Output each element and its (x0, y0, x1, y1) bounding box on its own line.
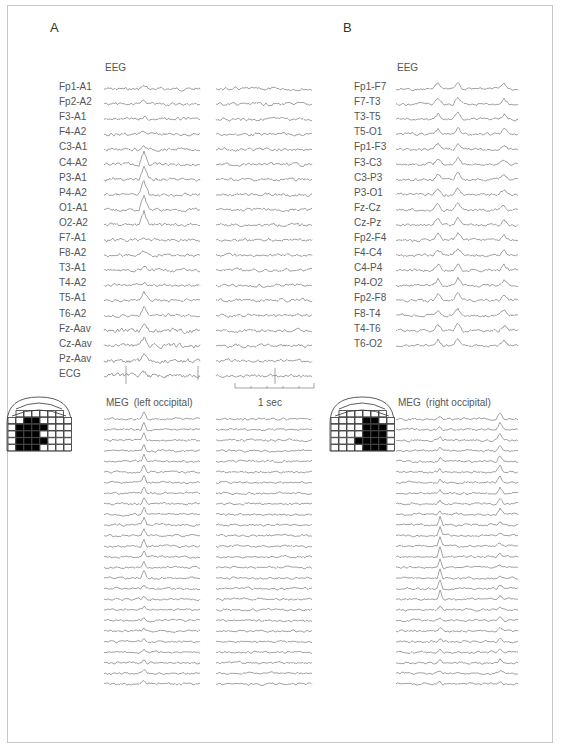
waveform-trace (216, 651, 312, 654)
waveform-trace (396, 233, 518, 242)
sensor (64, 424, 71, 430)
sensor (8, 417, 15, 423)
sensor (40, 417, 47, 423)
active-sensor (379, 431, 386, 437)
active-sensor (40, 424, 47, 430)
waveform-trace (104, 324, 200, 334)
sensor (8, 431, 15, 437)
waveform-trace (396, 580, 518, 590)
channel-label: F3-A1 (59, 111, 86, 123)
waveform-trace (216, 298, 312, 302)
right-occipital-sensor-map-icon (327, 393, 397, 453)
channel-label: Fp1-F7 (354, 81, 386, 93)
left-occipital-sensor-map-icon (4, 393, 74, 453)
waveform-trace (396, 293, 518, 303)
sensor (355, 431, 362, 437)
waveform-trace (104, 617, 200, 622)
waveform-trace (396, 487, 518, 495)
waveform-trace (104, 146, 200, 152)
channel-label: O2-A2 (59, 217, 88, 229)
waveform-trace (104, 465, 200, 473)
waveform-trace (396, 445, 518, 452)
active-sensor (363, 438, 370, 444)
waveform-trace (396, 434, 518, 442)
waveform-trace (235, 383, 314, 388)
channel-label: F3-C3 (354, 157, 382, 169)
channel-label: F7-A1 (59, 232, 86, 244)
panel-a-meg-traces (104, 413, 314, 693)
waveform-trace (104, 180, 200, 196)
waveform-trace (104, 117, 200, 121)
sensor (387, 445, 394, 451)
waveform-trace (216, 471, 312, 473)
waveform-trace (104, 445, 200, 453)
channel-label: T6-A2 (59, 308, 86, 320)
waveform-trace (216, 640, 312, 642)
waveform-trace (216, 524, 312, 526)
panel-b-letter: B (343, 20, 352, 35)
waveform-trace (104, 476, 200, 484)
channel-label: T6-O2 (354, 338, 382, 350)
waveform-trace (104, 433, 200, 442)
panel-a-letter: A (50, 20, 59, 35)
waveform-trace (216, 314, 312, 318)
active-sensor (363, 424, 370, 430)
waveform-trace (216, 284, 312, 288)
waveform-trace (104, 529, 200, 537)
waveform-trace (216, 566, 312, 569)
waveform-trace (104, 337, 200, 349)
waveform-trace (104, 571, 200, 580)
channel-label: F8-T4 (354, 308, 381, 320)
active-sensor (371, 438, 378, 444)
sensor (347, 445, 354, 451)
channel-label: Fp1-F3 (354, 141, 386, 153)
active-sensor (371, 431, 378, 437)
waveform-trace (104, 195, 200, 212)
waveform-trace (104, 638, 200, 643)
sensor (48, 438, 55, 444)
waveform-trace (216, 587, 312, 590)
waveform-trace (396, 173, 518, 181)
waveform-trace (216, 148, 312, 152)
active-sensor (379, 424, 386, 430)
waveform-trace (396, 617, 518, 622)
waveform-trace (396, 537, 518, 548)
waveform-trace (216, 608, 312, 611)
waveform-trace (216, 450, 312, 452)
sensor (40, 445, 47, 451)
sensor (64, 431, 71, 437)
sensor (8, 438, 15, 444)
waveform-trace (396, 569, 518, 580)
waveform-trace (396, 590, 518, 601)
panel-a-eeg-traces (104, 78, 314, 378)
channel-label: C3-P3 (354, 172, 382, 184)
sensor (56, 445, 63, 451)
active-sensor (32, 445, 39, 451)
active-sensor (32, 438, 39, 444)
waveform-trace (396, 157, 518, 165)
waveform-trace (216, 481, 312, 484)
sensor (331, 424, 338, 430)
waveform-trace (216, 429, 312, 431)
sensor (8, 445, 15, 451)
waveform-trace (104, 660, 200, 664)
sensor (355, 445, 362, 451)
waveform-trace (104, 210, 200, 226)
waveform-trace (216, 328, 312, 332)
waveform-trace (216, 661, 312, 664)
waveform-trace (104, 412, 200, 420)
panel-b-eeg-traces (396, 78, 522, 358)
waveform-trace (104, 498, 200, 505)
channel-label: O1-A1 (59, 202, 88, 214)
waveform-trace (104, 517, 200, 526)
waveform-trace (396, 456, 518, 463)
active-sensor (24, 431, 31, 437)
waveform-trace (216, 577, 312, 580)
channel-label: T5-A1 (59, 292, 86, 304)
waveform-trace (216, 359, 312, 363)
waveform-trace (396, 128, 518, 136)
waveform-trace (216, 223, 312, 227)
waveform-trace (396, 659, 518, 665)
sensor (379, 417, 386, 423)
waveform-trace (216, 672, 312, 675)
